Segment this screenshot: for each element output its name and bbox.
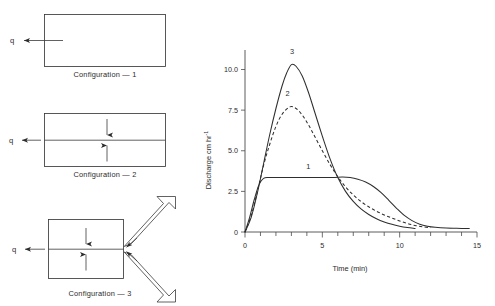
configuration-2-group: q Configuration — 2: [9, 114, 166, 180]
y-tick-label: 0: [234, 228, 238, 237]
configuration-2-caption: Configuration — 2: [74, 170, 137, 179]
curve-series-1: [245, 177, 469, 232]
configuration-3-group: q Configuration — 3: [12, 197, 176, 303]
configuration-2-q-label: q: [9, 136, 13, 145]
curve-label-3: 3: [290, 47, 294, 56]
configuration-1-q-label: q: [10, 36, 14, 45]
y-axis-title-text: Discharge cm hr: [204, 135, 213, 189]
chart-svg: Discharge cm hr-1 02.55.07.510.0 051015 …: [198, 0, 495, 306]
x-tick-label: 0: [243, 241, 247, 250]
configuration-3-lower-side-plane: [124, 252, 175, 302]
configuration-3-upper-side-plane: [124, 197, 175, 247]
configuration-1-caption: Configuration — 1: [74, 70, 137, 79]
y-axis-title-exponent: -1: [203, 131, 209, 136]
x-tick-labels: 051015: [243, 241, 481, 250]
y-axis-title-group: Discharge cm hr-1: [203, 131, 213, 190]
x-axis-title: Time (min): [332, 264, 367, 273]
x-tick-label: 10: [396, 241, 404, 250]
y-tick-label: 5.0: [228, 146, 238, 155]
configuration-1-group: q Configuration — 1: [10, 15, 166, 80]
y-axis-title: Discharge cm hr-1: [203, 131, 213, 190]
y-tick-labels: 02.55.07.510.0: [224, 65, 238, 237]
configuration-diagrams-panel: q Configuration — 1 q Configuration — 2 …: [0, 0, 210, 306]
curves-layer: [245, 64, 469, 232]
y-tick-label: 2.5: [228, 187, 238, 196]
y-tick-label: 10.0: [224, 65, 238, 74]
configuration-3-caption: Configuration — 3: [69, 289, 132, 298]
curve-label-2: 2: [285, 89, 289, 98]
curve-labels-layer: 321: [285, 47, 310, 171]
configuration-diagrams-svg: q Configuration — 1 q Configuration — 2 …: [0, 0, 210, 306]
curve-series-3: [245, 64, 415, 232]
x-tick-label: 5: [320, 241, 324, 250]
y-tick-label: 7.5: [228, 106, 238, 115]
axes-layer: [241, 50, 477, 238]
curve-series-2: [245, 107, 431, 232]
figure-root: q Configuration — 1 q Configuration — 2 …: [0, 0, 495, 306]
x-tick-label: 15: [473, 241, 481, 250]
configuration-3-q-label: q: [12, 245, 16, 254]
curve-label-1: 1: [306, 162, 310, 171]
discharge-hydrograph-chart: Discharge cm hr-1 02.55.07.510.0 051015 …: [198, 0, 495, 306]
